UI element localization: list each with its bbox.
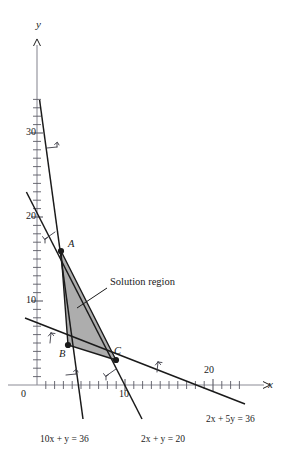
arrow-10x-y-36-lower bbox=[66, 369, 78, 375]
vertex-point-b bbox=[65, 342, 71, 348]
equation-label-2x-y-20: 2x + y = 20 bbox=[141, 434, 185, 444]
y-tick-label-30: 30 bbox=[26, 126, 36, 137]
vertex-point-a bbox=[58, 248, 64, 254]
x-axis bbox=[8, 379, 264, 391]
vertex-label-c: C bbox=[114, 345, 121, 356]
equation-label-2x-5y-36: 2x + 5y = 36 bbox=[206, 414, 255, 424]
equation-label-10x-y-36: 10x + y = 36 bbox=[40, 434, 89, 444]
solution-region-graph bbox=[0, 0, 290, 462]
vertex-label-a: A bbox=[68, 238, 74, 249]
origin-label: 0 bbox=[21, 388, 26, 399]
x-tick-label-20: 20 bbox=[204, 364, 214, 375]
arrow-2x-5y-36-left bbox=[48, 333, 55, 343]
arrow-10x-y-36-upper bbox=[47, 142, 59, 148]
y-tick-label-10: 10 bbox=[26, 294, 36, 305]
x-axis-label: x bbox=[268, 378, 273, 390]
line-2x-5y-36 bbox=[25, 318, 245, 404]
x-tick-label-10: 10 bbox=[119, 388, 129, 399]
solution-region-label: Solution region bbox=[110, 276, 175, 287]
arrow-2x-y-20-lower bbox=[104, 369, 116, 380]
vertex-point-c bbox=[113, 357, 119, 363]
y-axis-label: y bbox=[36, 18, 41, 30]
vertex-label-b: B bbox=[59, 348, 65, 359]
y-tick-label-20: 20 bbox=[26, 210, 36, 221]
